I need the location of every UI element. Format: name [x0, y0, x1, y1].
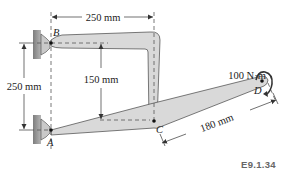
dimension-label-left: 250 mm: [7, 81, 42, 92]
dimension-label-cd: 180 mm: [199, 111, 235, 134]
point-label-c: C: [156, 124, 164, 135]
figure-id: E9.1.34: [241, 159, 276, 170]
frame-diagram: 250 mm 250 mm 150 mm 180 mm 100 N·m B A …: [0, 0, 285, 179]
point-label-a: A: [46, 137, 54, 148]
moment-label: 100 N·m: [228, 70, 266, 81]
pin-b: [49, 41, 53, 45]
dimension-label-top: 250 mm: [86, 12, 121, 23]
pin-a: [49, 128, 53, 132]
point-label-b: B: [53, 27, 60, 38]
dimension-label-inner: 150 mm: [84, 74, 119, 85]
dimension-inner-150: 150 mm: [84, 44, 119, 119]
pin-c: [152, 119, 156, 123]
point-label-d: D: [253, 85, 262, 96]
dimension-top-250: 250 mm: [52, 12, 153, 23]
wall-support-b: [33, 30, 50, 59]
